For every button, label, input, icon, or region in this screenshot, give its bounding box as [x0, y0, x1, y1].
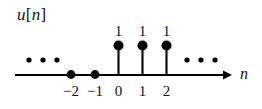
axis-arrowhead	[223, 70, 232, 79]
tick-label-minus-1: −1	[87, 84, 103, 99]
bracket-close: ]	[41, 5, 47, 24]
left-continuation-dots	[26, 57, 59, 62]
sample-marker-n0	[114, 41, 124, 51]
signal-name-label: u[n]	[17, 6, 47, 23]
axis-label-n: n	[240, 66, 248, 82]
tick-label-0: 0	[115, 84, 123, 99]
tick-label-1: 1	[139, 84, 147, 99]
discrete-signal-figure: u[n] n 1 1 1 −2 −1 0 1 2	[0, 0, 262, 109]
sample-marker-n-minus-1	[91, 70, 100, 79]
signal-index: n	[32, 5, 41, 24]
right-continuation-dots	[184, 57, 217, 62]
tick-label-minus-2: −2	[63, 84, 79, 99]
sample-marker-n2	[162, 41, 172, 51]
stem-value-label-n2: 1	[163, 24, 171, 39]
stem-value-label-n1: 1	[139, 24, 147, 39]
tick-label-2: 2	[163, 84, 171, 99]
sample-marker-n1	[138, 41, 148, 51]
stem-value-label-n0: 1	[115, 24, 123, 39]
sample-marker-n-minus-2	[67, 70, 76, 79]
signal-var: u	[17, 5, 26, 24]
n-axis	[15, 70, 232, 79]
